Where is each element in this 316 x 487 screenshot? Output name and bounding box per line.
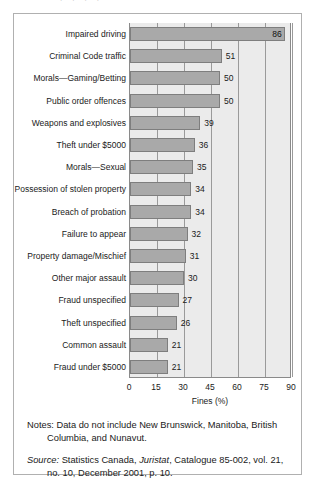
category-label: Criminal Code traffic — [49, 49, 126, 63]
bar-chart: 86515050393635343432313027262121 Impaire… — [14, 14, 301, 396]
gridline-90 — [292, 23, 293, 377]
bar-value-label: 86 — [272, 27, 281, 41]
notes-label: Notes: — [27, 420, 54, 430]
bar-value-label: 21 — [168, 360, 181, 374]
x-tick-0: 0 — [127, 382, 132, 392]
bar-row: 35 — [130, 160, 292, 174]
bar-row: 34 — [130, 182, 292, 196]
bar — [130, 227, 188, 241]
bar-value-label: 31 — [186, 249, 199, 263]
category-label: Property damage/Mischief — [27, 249, 126, 263]
bar-row: 50 — [130, 94, 292, 108]
bar — [130, 116, 200, 130]
notes-line: Notes: Data do not include New Brunswick… — [27, 419, 289, 445]
bar-value-label: 50 — [220, 71, 233, 85]
bar-row: 32 — [130, 227, 292, 241]
plot-area: 86515050393635343432313027262121 — [129, 23, 291, 378]
source-label: Source: — [27, 455, 59, 465]
bar — [130, 138, 195, 152]
x-tick-45: 45 — [205, 382, 214, 392]
bar-value-label: 32 — [188, 227, 201, 241]
x-tick-90: 90 — [286, 382, 295, 392]
bar-row: 26 — [130, 316, 292, 330]
bar — [130, 293, 179, 307]
category-label: Failure to appear — [62, 227, 126, 241]
figure-frame: 86515050393635343432313027262121 Impaire… — [13, 13, 302, 475]
x-tick-30: 30 — [178, 382, 187, 392]
bar — [130, 71, 220, 85]
bar-row: 27 — [130, 293, 292, 307]
bar-rows: 86515050393635343432313027262121 — [130, 23, 290, 377]
bar-row: 34 — [130, 205, 292, 219]
bar-value-label: 50 — [220, 94, 233, 108]
bar-row: 30 — [130, 271, 292, 285]
source-text-pre: Statistics Canada, — [59, 455, 139, 465]
bar-value-label: 39 — [200, 116, 213, 130]
x-axis-tick-labels: 0153045607590 — [129, 382, 291, 394]
category-axis-labels: Impaired drivingCriminal Code trafficMor… — [14, 23, 126, 378]
bar — [130, 49, 222, 63]
category-label: Other major assault — [52, 271, 126, 285]
category-label: Common assault — [62, 338, 126, 352]
bar-value-label: 27 — [179, 293, 192, 307]
bar — [130, 27, 285, 41]
source-publication: Juristat — [139, 455, 169, 465]
bar-value-label: 36 — [195, 138, 208, 152]
bar-value-label: 21 — [168, 338, 181, 352]
bar — [130, 249, 186, 263]
bar-row: 39 — [130, 116, 292, 130]
bar-row: 21 — [130, 338, 292, 352]
category-label: Possession of stolen property — [14, 182, 126, 196]
category-label: Fraud under $5000 — [54, 360, 126, 374]
bar-row: 51 — [130, 49, 292, 63]
x-tick-15: 15 — [151, 382, 160, 392]
x-tick-60: 60 — [232, 382, 241, 392]
x-tick-75: 75 — [259, 382, 268, 392]
figure-page: .... 86515050393635343432313027262121 Im… — [0, 0, 316, 487]
category-label: Impaired driving — [66, 27, 126, 41]
bar-value-label: 30 — [184, 271, 197, 285]
bar-row: 36 — [130, 138, 292, 152]
bar-value-label: 34 — [191, 182, 204, 196]
category-label: Theft under $5000 — [57, 138, 126, 152]
notes-text: Data do not include New Brunswick, Manit… — [47, 420, 277, 443]
x-axis-title: Fines (%) — [129, 396, 291, 406]
category-label: Theft unspecified — [61, 316, 126, 330]
bar — [130, 205, 191, 219]
bar — [130, 160, 193, 174]
bar-value-label: 34 — [191, 205, 204, 219]
bar — [130, 316, 177, 330]
clipped-caption-artifact: .... — [60, 0, 260, 2]
category-label: Public order offences — [46, 94, 126, 108]
source-line: Source: Statistics Canada, Juristat, Cat… — [27, 454, 289, 480]
category-label: Morals—Gaming/Betting — [33, 71, 126, 85]
bar — [130, 360, 168, 374]
footnotes: Notes: Data do not include New Brunswick… — [27, 419, 289, 480]
category-label: Morals—Sexual — [66, 160, 126, 174]
bar-row: 31 — [130, 249, 292, 263]
category-label: Breach of probation — [52, 205, 126, 219]
category-label: Weapons and explosives — [32, 116, 126, 130]
bar-value-label: 51 — [222, 49, 235, 63]
bar — [130, 338, 168, 352]
bar — [130, 94, 220, 108]
bar-row: 21 — [130, 360, 292, 374]
bar-row: 86 — [130, 27, 292, 41]
bar-value-label: 35 — [193, 160, 206, 174]
bar — [130, 271, 184, 285]
bar-row: 50 — [130, 71, 292, 85]
bar-value-label: 26 — [177, 316, 190, 330]
category-label: Fraud unspecified — [58, 293, 126, 307]
bar — [130, 182, 191, 196]
